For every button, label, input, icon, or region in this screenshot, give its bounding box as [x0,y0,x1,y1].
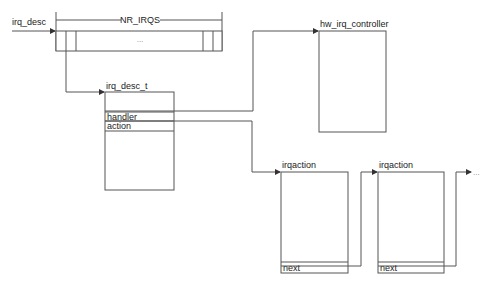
irqaction-title: irqaction [282,160,316,170]
irqaction-struct-1: irqaction next [281,160,348,273]
hw-irq-controller-title: hw_irq_controller [320,19,389,29]
irqaction-struct-2: irqaction next [378,160,444,273]
array-to-irq-desc-t-arrow [66,51,104,92]
field-action: action [107,121,131,131]
hw-irq-controller-struct: hw_irq_controller [319,19,389,132]
irq-desc-t-title: irq_desc_t [106,81,148,91]
irq-desc-t-struct: irq_desc_t handler action [105,81,174,190]
irq-desc-t-box [105,92,174,190]
array-ellipsis: ... [137,35,144,44]
hw-irq-controller-box [319,31,386,132]
irq-diagram: irq_desc NR_IRQS ... irq_desc_t handler … [0,0,489,284]
irqaction-box [378,172,444,273]
irq-desc-pointer: irq_desc [12,17,55,31]
irq-desc-label: irq_desc [12,17,47,27]
nr-irqs-label: NR_IRQS [120,15,160,25]
irqaction-title: irqaction [379,160,413,170]
irqaction-box [281,172,348,273]
nr-irqs-array: NR_IRQS ... [56,12,222,51]
field-next: next [283,263,301,273]
field-next: next [380,263,398,273]
continuation-ellipsis: ... [473,168,480,177]
